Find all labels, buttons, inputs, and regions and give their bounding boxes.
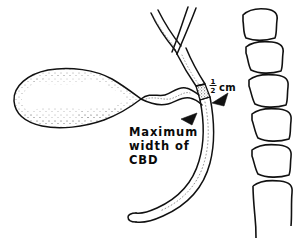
gallbladder-stipple-upper <box>32 75 88 85</box>
vertebra-1 <box>243 9 277 41</box>
vertebra-4 <box>252 109 291 141</box>
cbd-annotation-line-1: Maximum <box>129 125 198 139</box>
measurement-numerator: 1 <box>211 78 216 86</box>
cbd-annotation-line-3: CBD <box>129 153 158 167</box>
measurement-denominator: 2 <box>211 87 216 95</box>
biliary-diagram-figure: 1 2 cm Maximum width of CBD <box>0 0 295 238</box>
cbd-annotation-line-2: width of <box>129 139 190 153</box>
vertebra-5 <box>252 145 291 177</box>
vertebra-2 <box>246 42 283 73</box>
measurement-unit: cm <box>219 82 236 93</box>
vertebra-3 <box>249 75 288 107</box>
diagram-canvas: 1 2 cm Maximum width of CBD <box>0 0 295 238</box>
